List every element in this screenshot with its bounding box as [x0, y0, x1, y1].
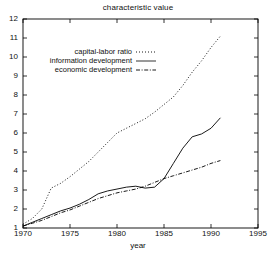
y-tick-label: 11	[0, 34, 18, 42]
x-axis-title: year	[0, 241, 276, 250]
x-tick-label: 1975	[50, 230, 90, 238]
chart-legend: capital-labor ratio information developm…	[28, 47, 156, 74]
legend-item-economic-development: economic development	[28, 65, 156, 74]
y-tick-label: 10	[0, 53, 18, 61]
y-tick-label: 12	[0, 15, 18, 23]
x-tick-label: 1985	[144, 230, 184, 238]
y-tick-label: 9	[0, 72, 18, 80]
y-tick-label: 4	[0, 167, 18, 175]
x-tick-label: 1980	[97, 230, 137, 238]
y-tick-label: 2	[0, 205, 18, 213]
y-tick-label: 8	[0, 91, 18, 99]
legend-swatch-dash-dot-icon	[136, 66, 156, 74]
y-tick-label: 5	[0, 148, 18, 156]
x-tick-label: 1995	[238, 230, 276, 238]
legend-label: information development	[50, 56, 132, 65]
series-line	[23, 118, 220, 226]
y-tick-label: 7	[0, 110, 18, 118]
legend-item-information-development: information development	[28, 56, 156, 65]
legend-label: capital-labor ratio	[74, 47, 132, 56]
chart-figure: characteristic value 123456789101112 197…	[0, 0, 276, 254]
y-tick-label: 6	[0, 129, 18, 137]
legend-item-capital-labor-ratio: capital-labor ratio	[28, 47, 156, 56]
plot-canvas	[0, 0, 276, 254]
series-line	[23, 161, 220, 227]
y-tick-label: 3	[0, 186, 18, 194]
legend-swatch-dotted-icon	[136, 48, 156, 56]
x-tick-label: 1970	[3, 230, 43, 238]
legend-swatch-solid-icon	[136, 57, 156, 65]
x-tick-label: 1990	[191, 230, 231, 238]
legend-label: economic development	[55, 65, 132, 74]
